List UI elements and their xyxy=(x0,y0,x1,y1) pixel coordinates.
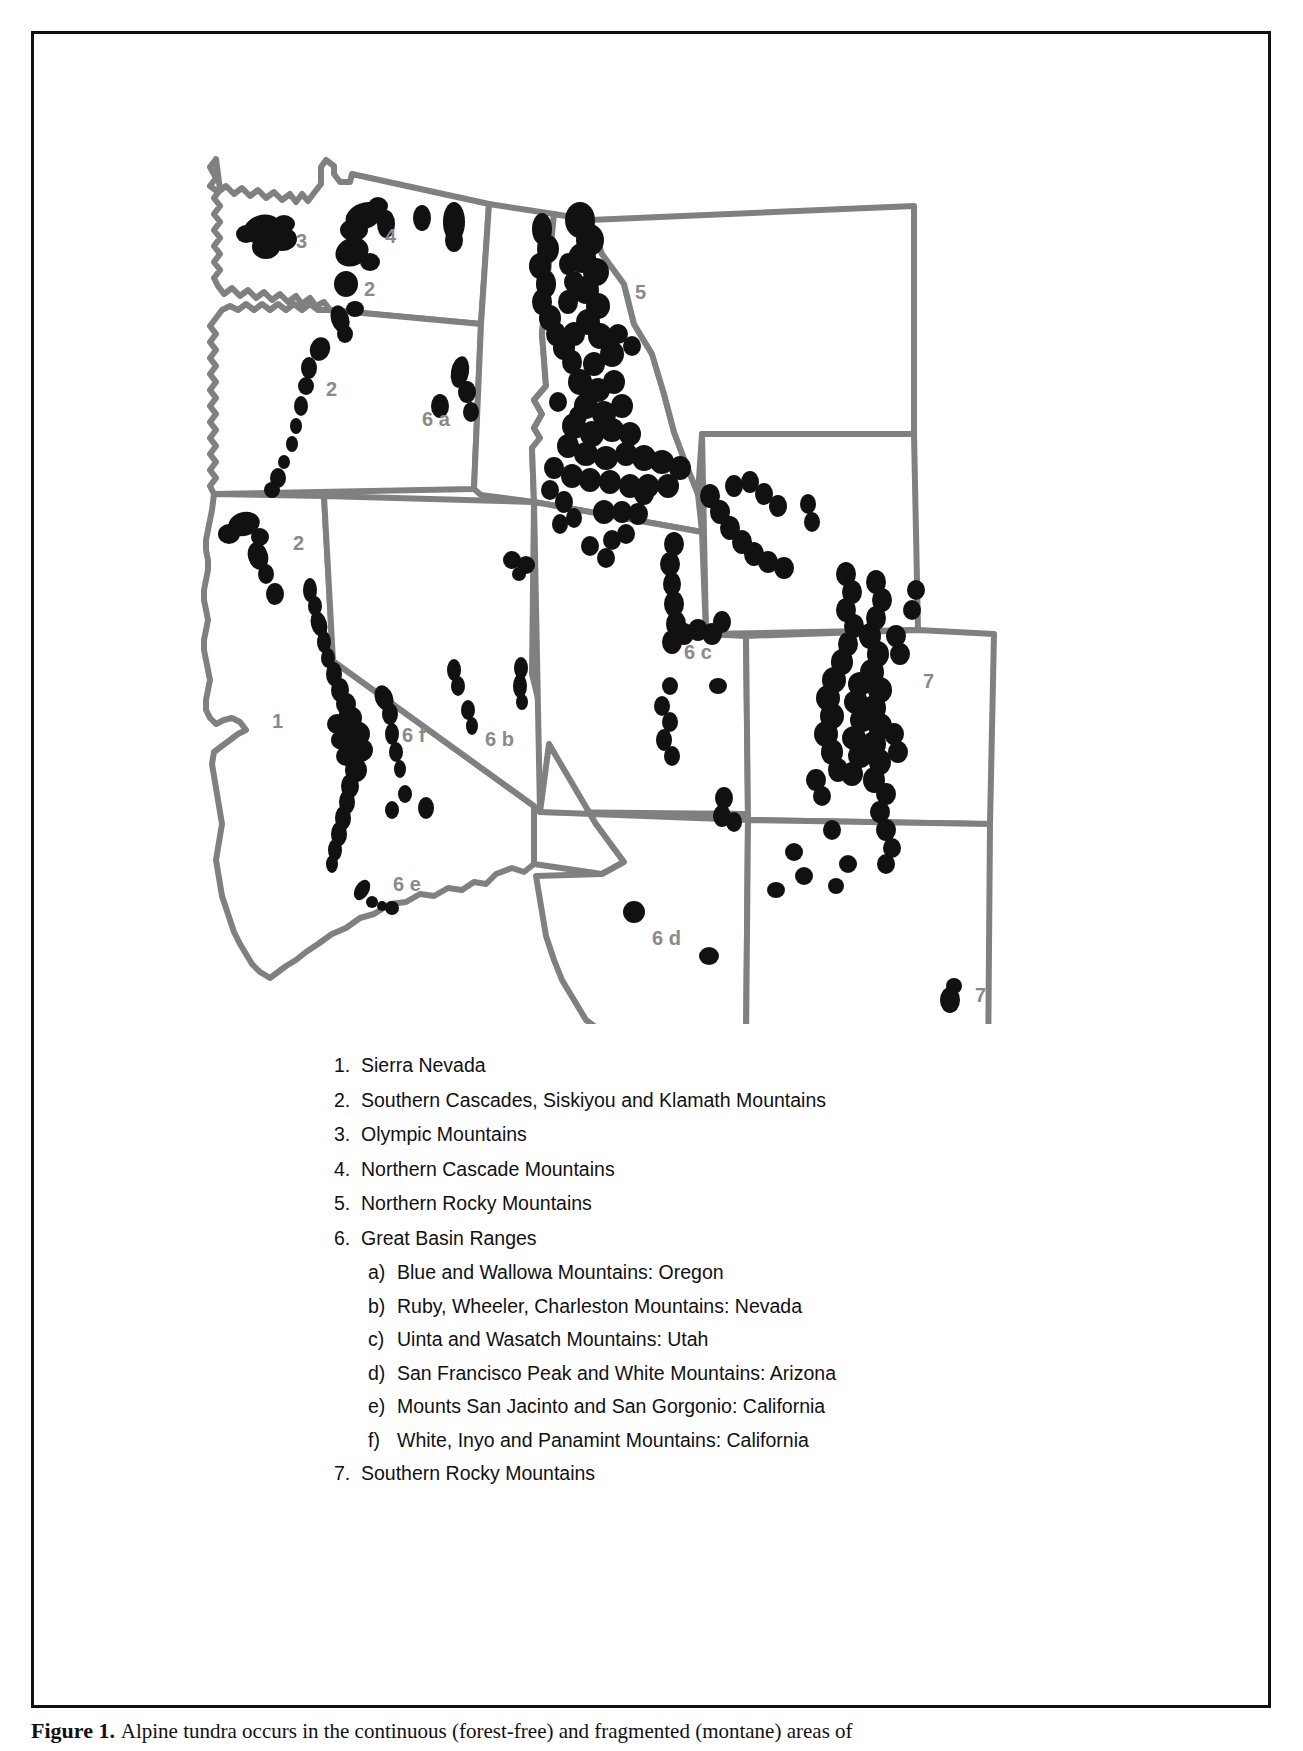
map-label: 4 xyxy=(385,225,397,247)
legend-item: 5. Northern Rocky Mountains xyxy=(334,1194,1074,1214)
legend-subitem-number: d) xyxy=(368,1364,397,1384)
legend-item-label: Great Basin Ranges xyxy=(361,1229,1074,1249)
legend: 1. Sierra Nevada 2. Southern Cascades, S… xyxy=(334,1056,1074,1499)
map-label: 2 xyxy=(364,278,375,300)
map-label: 6 f xyxy=(402,724,426,746)
legend-subitem: d) San Francisco Peak and White Mountain… xyxy=(368,1364,1074,1384)
legend-subitem: e) Mounts San Jacinto and San Gorgonio: … xyxy=(368,1397,1074,1417)
figure-caption-label: Figure 1. xyxy=(31,1718,115,1743)
legend-subitem-label: Uinta and Wasatch Mountains: Utah xyxy=(397,1330,1074,1350)
legend-item-number: 5. xyxy=(334,1194,361,1214)
legend-subitem-label: White, Inyo and Panamint Mountains: Cali… xyxy=(397,1431,1074,1451)
legend-item-number: 6. xyxy=(334,1229,361,1249)
western-us-map-svg: 1 2 2 2 3 4 5 6 a 6 b 6 c 6 d 6 e 6 f 7 … xyxy=(34,34,1268,1024)
legend-item: 1. Sierra Nevada xyxy=(334,1056,1074,1076)
legend-item-label: Sierra Nevada xyxy=(361,1056,1074,1076)
map-label: 6 a xyxy=(422,408,451,430)
legend-subitem: a) Blue and Wallowa Mountains: Oregon xyxy=(368,1263,1074,1283)
legend-subitem: b) Ruby, Wheeler, Charleston Mountains: … xyxy=(368,1297,1074,1317)
figure-frame: 1 2 2 2 3 4 5 6 a 6 b 6 c 6 d 6 e 6 f 7 … xyxy=(31,31,1271,1708)
map-label: 6 d xyxy=(652,927,681,949)
legend-subitem-number: a) xyxy=(368,1263,397,1283)
map-label: 5 xyxy=(635,281,646,303)
map-label: 2 xyxy=(326,378,337,400)
legend-item-number: 1. xyxy=(334,1056,361,1076)
legend-item: 4. Northern Cascade Mountains xyxy=(334,1160,1074,1180)
legend-item-number: 3. xyxy=(334,1125,361,1145)
legend-item: 2. Southern Cascades, Siskiyou and Klama… xyxy=(334,1091,1074,1111)
legend-subitem-number: f) xyxy=(368,1431,397,1451)
legend-item-label: Southern Rocky Mountains xyxy=(361,1464,1074,1484)
map-label: 6 b xyxy=(485,728,514,750)
legend-item-label: Northern Rocky Mountains xyxy=(361,1194,1074,1214)
legend-subitem-number: e) xyxy=(368,1397,397,1417)
map-label: 6 e xyxy=(393,873,421,895)
map-graphic: 1 2 2 2 3 4 5 6 a 6 b 6 c 6 d 6 e 6 f 7 … xyxy=(34,34,1268,1024)
map-label: 1 xyxy=(272,710,283,732)
legend-subitem: c) Uinta and Wasatch Mountains: Utah xyxy=(368,1330,1074,1350)
legend-item-label: Olympic Mountains xyxy=(361,1125,1074,1145)
map-label: 6 c xyxy=(684,641,712,663)
legend-item-number: 7. xyxy=(334,1464,361,1484)
legend-item: 6. Great Basin Ranges xyxy=(334,1229,1074,1249)
figure-caption-text: Alpine tundra occurs in the continuous (… xyxy=(121,1719,853,1743)
legend-item-number: 4. xyxy=(334,1160,361,1180)
figure-caption: Figure 1. Alpine tundra occurs in the co… xyxy=(31,1718,1271,1751)
legend-subitem-number: c) xyxy=(368,1330,397,1350)
legend-subitem: f) White, Inyo and Panamint Mountains: C… xyxy=(368,1431,1074,1451)
legend-subitem-number: b) xyxy=(368,1297,397,1317)
legend-item-label: Southern Cascades, Siskiyou and Klamath … xyxy=(361,1091,1074,1111)
legend-subitem-label: San Francisco Peak and White Mountains: … xyxy=(397,1364,1074,1384)
map-label: 3 xyxy=(296,230,307,252)
legend-item-label: Northern Cascade Mountains xyxy=(361,1160,1074,1180)
legend-item-number: 2. xyxy=(334,1091,361,1111)
legend-subitem-label: Mounts San Jacinto and San Gorgonio: Cal… xyxy=(397,1397,1074,1417)
map-label: 2 xyxy=(293,532,304,554)
legend-item: 7. Southern Rocky Mountains xyxy=(334,1464,1074,1484)
legend-subitem-label: Ruby, Wheeler, Charleston Mountains: Nev… xyxy=(397,1297,1074,1317)
map-label: 7 xyxy=(923,670,934,692)
legend-item: 3. Olympic Mountains xyxy=(334,1125,1074,1145)
legend-subitem-label: Blue and Wallowa Mountains: Oregon xyxy=(397,1263,1074,1283)
map-label: 7 xyxy=(975,984,986,1006)
